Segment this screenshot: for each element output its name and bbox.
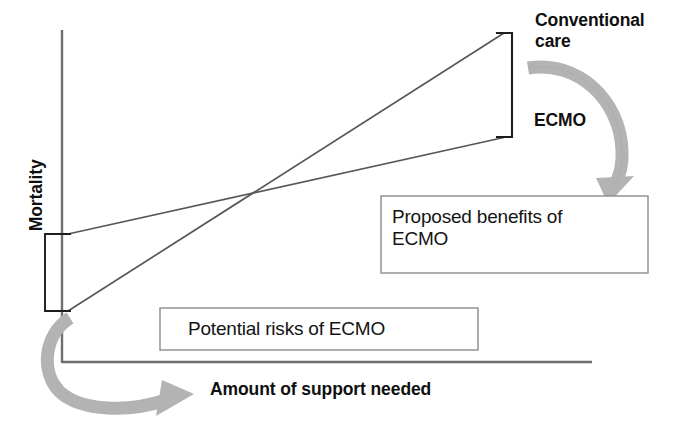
ecmo-label: ECMO — [534, 110, 586, 131]
x-axis-label: Amount of support needed — [210, 379, 431, 400]
proposed-benefits-bracket — [497, 33, 512, 137]
benefits-curved-arrow — [528, 67, 634, 204]
potential-risks-box-label: Potential risks of ECMO — [188, 318, 468, 340]
conventional-care-label: Conventional care — [535, 10, 685, 51]
potential-risks-bracket — [45, 234, 70, 311]
y-axis-label: Mortality — [26, 147, 47, 243]
ecmo-risk-benefit-diagram: Conventional care ECMO Proposed benefits… — [0, 0, 685, 422]
proposed-benefits-box-label: Proposed benefits of ECMO — [392, 206, 642, 251]
